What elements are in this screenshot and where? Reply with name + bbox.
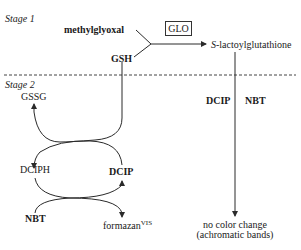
stage2-label: Stage 2	[5, 79, 35, 90]
gssg-label: GSSG	[21, 91, 47, 102]
gsh-to-gssg-arrow	[34, 62, 122, 142]
formazan-text: formazan	[103, 220, 141, 231]
nbt-label: NBT	[25, 213, 46, 224]
methylglyoxal-label: methylglyoxal	[64, 24, 124, 35]
product-label: S-lactoylglutathione	[211, 39, 292, 50]
glo-enzyme-box: GLO	[165, 21, 192, 36]
stage1-label: Stage 1	[5, 13, 35, 24]
right-dcip-label: DCIP	[206, 95, 230, 106]
nbt-to-formazan-arrow	[35, 198, 122, 217]
dcip-label: DCIP	[109, 166, 133, 177]
gsh-label: GSH	[111, 53, 132, 64]
formazan-label: formazanVIS	[103, 218, 152, 231]
product-rest: -lactoylglutathione	[216, 39, 292, 50]
right-nbt-label: NBT	[245, 95, 266, 106]
formazan-superscript: VIS	[141, 219, 152, 227]
result-line2: (achromatic bands)	[190, 229, 280, 240]
dciph-to-dcip-arrow	[35, 178, 122, 198]
dciph-label: DCIPH	[20, 164, 50, 175]
